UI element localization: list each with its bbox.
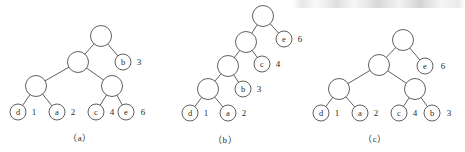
tree-node-leaf: a2 [220, 105, 246, 121]
tree-node-internal [405, 79, 426, 100]
tree-edge [86, 68, 104, 80]
tree-node-leaf: d1 [182, 105, 208, 121]
tree-node-leaf: d1 [10, 104, 36, 120]
node-weight-label: 1 [335, 108, 340, 118]
node-weight-label: 4 [276, 59, 281, 69]
node-circle [91, 26, 112, 47]
node-weight-label: 6 [298, 34, 303, 44]
tree-node-internal [91, 26, 112, 47]
node-weight-label: 3 [137, 57, 142, 67]
tree-node-leaf: c4 [391, 105, 418, 121]
node-circle [329, 79, 350, 100]
tree-edge [252, 50, 258, 58]
node-weight-label: 1 [32, 107, 37, 117]
tree-edge [251, 24, 257, 33]
tree-node-leaf: c4 [88, 104, 115, 120]
node-letter-label: e [282, 34, 286, 44]
tree-node-internal [102, 76, 123, 97]
tree-edge [387, 71, 406, 84]
node-weight-label: 2 [374, 108, 379, 118]
tree-edge [234, 50, 240, 58]
node-weight-label: 4 [413, 108, 418, 118]
node-letter-label: a [358, 108, 362, 118]
panel-c: e6d1a2c4b3 [313, 30, 452, 122]
tree-node-leaf: a2 [49, 104, 75, 120]
node-letter-label: e [423, 61, 427, 71]
tree-edge [215, 74, 222, 82]
node-circle [393, 30, 414, 51]
node-circle [236, 32, 257, 53]
node-weight-label: 2 [71, 107, 76, 117]
node-weight-label: 2 [242, 108, 247, 118]
tree-node-leaf: b3 [235, 81, 262, 97]
node-letter-label: b [430, 108, 434, 118]
tree-node-leaf: e6 [276, 31, 303, 47]
node-circle [369, 55, 390, 76]
tree-node-leaf: c4 [254, 56, 281, 72]
tree-edge [45, 67, 70, 81]
node-circle [68, 52, 89, 73]
tree-edge [326, 97, 334, 107]
node-letter-label: b [241, 84, 245, 94]
node-letter-label: c [397, 108, 401, 118]
tree-node-internal [218, 56, 239, 77]
tree-node-leaf: a2 [352, 105, 378, 121]
node-letter-label: c [260, 59, 264, 69]
tree-node-internal [253, 6, 274, 27]
caption-a: （a） [68, 133, 92, 143]
tree-node-leaf: b3 [115, 54, 142, 70]
node-circle [198, 79, 219, 100]
tree-node-internal [236, 32, 257, 53]
tree-edge [85, 43, 95, 54]
node-circle [405, 79, 426, 100]
tree-edge [409, 48, 420, 61]
node-letter-label: a [55, 107, 59, 117]
tree-edge [117, 95, 123, 106]
node-weight-label: 4 [110, 107, 115, 117]
tree-node-internal [329, 79, 350, 100]
tree-node-leaf: e6 [118, 104, 146, 120]
huffman-tree-diagram: b3d1a2c4e6e6c4b3d1a2e6d1a2c4b3（a）（b）（c） [0, 0, 465, 152]
tree-edge [421, 97, 428, 107]
tree-edge [22, 94, 30, 106]
node-weight-label: 1 [204, 108, 209, 118]
tree-node-leaf: b3 [424, 105, 452, 121]
caption-c: （c） [363, 134, 387, 144]
tree-edge [348, 70, 371, 84]
tree-edge [100, 95, 107, 106]
tree-edge [233, 74, 238, 82]
node-weight-label: 6 [141, 107, 146, 117]
panel-a: b3d1a2c4e6 [10, 26, 146, 121]
panel-b: e6c4b3d1a2 [182, 6, 303, 122]
tree-edge [195, 97, 203, 107]
tree-node-internal [198, 79, 219, 100]
node-circle [26, 76, 47, 97]
tree-edge [386, 47, 396, 58]
tree-edge [270, 23, 279, 33]
node-letter-label: a [226, 108, 230, 118]
tree-edge [403, 97, 409, 106]
node-weight-label: 6 [441, 61, 446, 71]
tree-node-internal [68, 52, 89, 73]
tree-edge [214, 97, 223, 108]
tree-edge [107, 44, 118, 57]
node-weight-label: 3 [257, 84, 262, 94]
node-circle [218, 56, 239, 77]
tree-node-internal [393, 30, 414, 51]
caption-b: （b） [213, 135, 237, 145]
node-letter-label: c [94, 107, 98, 117]
node-letter-label: b [121, 57, 125, 67]
tree-edge [346, 97, 355, 108]
node-letter-label: e [124, 107, 128, 117]
tree-edge [42, 94, 52, 106]
tree-node-internal [26, 76, 47, 97]
figure-root: b3d1a2c4e6e6c4b3d1a2e6d1a2c4b3（a）（b）（c） [0, 0, 465, 152]
tree-node-internal [369, 55, 390, 76]
node-circle [102, 76, 123, 97]
tree-node-leaf: d1 [313, 105, 339, 121]
node-circle [253, 6, 274, 27]
node-weight-label: 3 [447, 108, 452, 118]
tree-node-leaf: e6 [417, 58, 446, 74]
